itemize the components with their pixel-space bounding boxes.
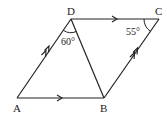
angle-arc-adb bbox=[63, 30, 76, 32]
segment-da bbox=[17, 19, 71, 98]
angle-label-adb: 60° bbox=[61, 36, 75, 47]
angle-arc-dcb bbox=[144, 19, 150, 31]
vertex-label-a: A bbox=[13, 102, 21, 114]
parallelogram-diagram: A B C D 60° 55° bbox=[0, 0, 167, 123]
vertex-label-c: C bbox=[155, 5, 162, 17]
vertex-label-b: B bbox=[100, 102, 107, 114]
angle-label-dcb: 55° bbox=[126, 26, 140, 37]
double-arrow-mark-bc bbox=[130, 48, 138, 59]
double-arrow-mark-ad bbox=[42, 46, 50, 57]
vertex-label-d: D bbox=[67, 5, 75, 17]
diagonal-db bbox=[71, 19, 104, 98]
